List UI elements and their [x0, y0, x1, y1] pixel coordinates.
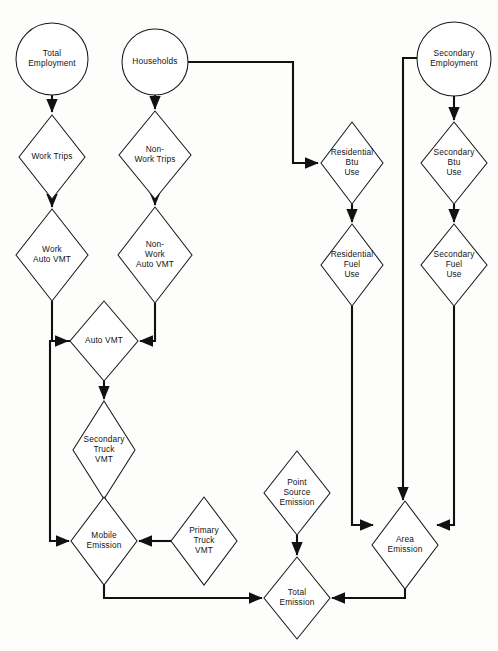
node-secondary_btu[interactable]: SecondaryBtuUse: [421, 122, 487, 204]
edge-secondary_employment-to-area_emission: [403, 58, 417, 500]
edge-mobile_emission-to-total_emission: [104, 585, 262, 598]
node-households[interactable]: Households: [122, 29, 188, 95]
node-residential_fuel[interactable]: ResidentialFuelUse: [321, 224, 383, 306]
node-mobile_emission[interactable]: MobileEmission: [71, 497, 137, 585]
node-non_work_trips[interactable]: Non-Work Trips: [119, 111, 191, 199]
node-label-auto_vmt: Auto VMT: [85, 335, 123, 345]
node-auto_vmt[interactable]: Auto VMT: [70, 301, 138, 381]
node-total_emission[interactable]: TotalEmission: [264, 557, 330, 639]
node-work_trips[interactable]: Work Trips: [19, 115, 85, 199]
node-secondary_fuel[interactable]: SecondaryFuelUse: [421, 224, 487, 306]
edge-residential_fuel-to-area_emission: [352, 306, 373, 525]
edge-secondary_fuel-to-area_emission: [437, 306, 454, 525]
node-label-mobile_emission: MobileEmission: [87, 530, 122, 550]
node-primary_truck_vmt[interactable]: PrimaryTruckVMT: [171, 497, 237, 585]
node-area_emission[interactable]: AreaEmission: [372, 501, 438, 589]
node-layer: TotalEmploymentHouseholdsSecondaryEmploy…: [16, 22, 491, 639]
edge-households-to-residential_btu: [188, 62, 318, 163]
node-secondary_employment[interactable]: SecondaryEmployment: [417, 22, 491, 96]
node-residential_btu[interactable]: ResidentialBtuUse: [321, 122, 383, 204]
flowchart-canvas: TotalEmploymentHouseholdsSecondaryEmploy…: [0, 0, 498, 651]
node-label-work_trips: Work Trips: [32, 151, 73, 161]
flowchart-svg: TotalEmploymentHouseholdsSecondaryEmploy…: [0, 0, 498, 651]
node-label-households: Households: [132, 56, 177, 66]
edge-auto_vmt-to-mobile_emission: [50, 341, 70, 541]
edge-work_auto_vmt-to-auto_vmt: [52, 301, 68, 341]
edge-non_work_auto_vmt-to-auto_vmt: [140, 303, 155, 341]
edge-area_emission-to-total_emission: [332, 589, 405, 598]
node-work_auto_vmt[interactable]: WorkAuto VMT: [16, 209, 88, 301]
node-non_work_auto_vmt[interactable]: Non-WorkAuto VMT: [118, 207, 192, 303]
node-secondary_truck_vmt[interactable]: SecondaryTruckVMT: [73, 401, 135, 499]
node-label-secondary_employment: SecondaryEmployment: [430, 48, 478, 68]
node-point_source[interactable]: PointSourceEmission: [264, 451, 330, 535]
node-total_employment[interactable]: TotalEmployment: [16, 23, 88, 95]
